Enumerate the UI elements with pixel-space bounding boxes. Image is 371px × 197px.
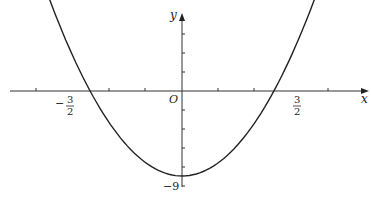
svg-text:2: 2 [294, 106, 300, 117]
x-axis-label: x [361, 92, 368, 106]
svg-text:−: − [55, 97, 64, 110]
svg-text:3: 3 [67, 94, 73, 105]
y-intercept-label: −9 [163, 180, 179, 193]
origin-label: O [169, 93, 178, 106]
chart-canvas: y x O − 3 2 3 2 −9 [0, 0, 371, 197]
y-axis-arrow-icon [179, 13, 185, 21]
three-halves-label: 3 2 [293, 94, 301, 117]
svg-text:3: 3 [294, 94, 300, 105]
neg-three-halves-label: − 3 2 [55, 94, 74, 117]
y-axis-label: y [169, 8, 177, 22]
svg-text:2: 2 [67, 106, 73, 117]
